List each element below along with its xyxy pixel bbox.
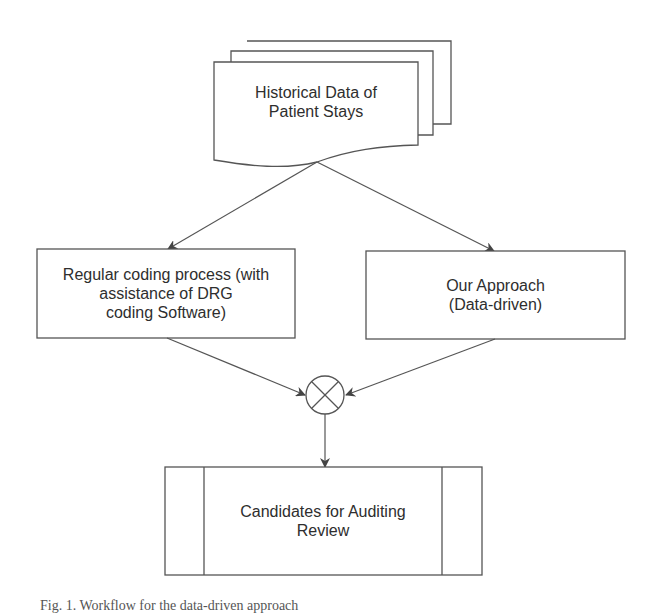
source-label-line2: Patient Stays bbox=[269, 102, 363, 121]
right-process-line1: Our Approach bbox=[446, 276, 545, 295]
source-label: Historical Data of Patient Stays bbox=[214, 78, 418, 126]
edge-source-to-left bbox=[168, 162, 317, 249]
source-label-line1: Historical Data of bbox=[255, 83, 377, 102]
edge-source-to-right bbox=[317, 162, 494, 251]
edge-right-to-merge bbox=[346, 339, 495, 395]
figure-caption: Fig. 1. Workflow for the data-driven app… bbox=[40, 598, 298, 614]
left-process-label: Regular coding process (with assistance … bbox=[37, 249, 295, 338]
edge-left-to-merge bbox=[167, 338, 305, 395]
left-process-line1: Regular coding process (with bbox=[63, 265, 269, 284]
right-process-line2: (Data-driven) bbox=[449, 295, 542, 314]
left-process-line3: coding Software) bbox=[106, 303, 226, 322]
output-label: Candidates for Auditing Review bbox=[204, 467, 442, 575]
merge-junction-icon bbox=[306, 376, 344, 414]
output-line2: Review bbox=[297, 521, 349, 540]
left-process-line2: assistance of DRG bbox=[99, 284, 232, 303]
right-process-label: Our Approach (Data-driven) bbox=[366, 251, 625, 339]
output-line1: Candidates for Auditing bbox=[240, 502, 405, 521]
